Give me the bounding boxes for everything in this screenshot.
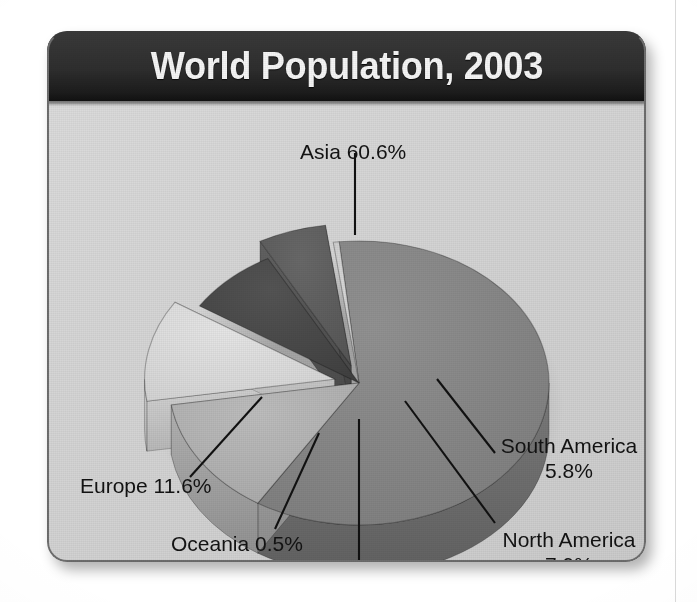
slice-label-asia: Asia 60.6% <box>300 139 406 164</box>
slice-label-oceania: Oceania 0.5% <box>171 531 303 556</box>
page-scan-line <box>675 0 676 602</box>
slice-label-south-america: South America 5.8% <box>499 433 639 483</box>
chart-title-bar: World Population, 2003 <box>47 31 646 101</box>
pie-slices-group <box>145 225 549 562</box>
pie-chart-stage: Asia 60.6% Europe 11.6% Oceania 0.5% Afr… <box>47 101 646 562</box>
slice-label-north-america: North America 7.9% <box>499 527 639 562</box>
page-title: World Population, 2003 <box>150 44 542 88</box>
infographic-card: World Population, 2003 <box>47 31 646 562</box>
slice-label-europe: Europe 11.6% <box>80 473 212 498</box>
